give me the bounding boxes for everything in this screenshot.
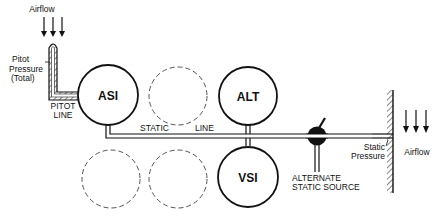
alt-instrument: ALT: [219, 67, 277, 125]
vsi-instrument: VSI: [218, 147, 278, 207]
airflow-down-arrows-icon: [41, 17, 65, 37]
svg-text:STATIC: STATIC: [140, 123, 169, 133]
svg-text:(Total): (Total): [11, 73, 35, 83]
alternate-static-valve-icon: [306, 118, 328, 146]
svg-text:LINE: LINE: [195, 123, 214, 133]
vsi-label: VSI: [238, 171, 257, 185]
alternate-static-source-label: ALTERNATE STATIC SOURCE: [292, 173, 360, 192]
svg-text:Pitot: Pitot: [12, 54, 30, 64]
airflow-top-group: Airflow: [29, 4, 65, 37]
static-line-label: STATIC LINE: [140, 123, 214, 133]
asi-instrument: ASI: [78, 65, 138, 125]
pitot-pressure-label: Pitot Pressure (Total): [9, 54, 43, 83]
airflow-down-arrows-icon: [403, 110, 429, 133]
static-pressure-label: Static Pressure: [351, 142, 386, 161]
svg-text:STATIC SOURCE: STATIC SOURCE: [292, 182, 360, 192]
pitot-tube: [45, 44, 81, 100]
airflow-top-label: Airflow: [29, 4, 55, 14]
pitot-static-diagram: Airflow Pitot Pressure (Total) PITOT LIN…: [0, 0, 441, 222]
svg-text:Pressure: Pressure: [351, 151, 385, 161]
empty-instrument-slot: [82, 150, 140, 208]
empty-instrument-slot: [149, 67, 207, 125]
alt-label: ALT: [237, 90, 260, 104]
empty-instrument-slot: [149, 150, 207, 208]
airflow-right-label: Airflow: [404, 147, 430, 157]
airflow-right-group: Airflow: [403, 110, 431, 157]
asi-label: ASI: [98, 89, 118, 103]
svg-text:LINE: LINE: [54, 110, 73, 120]
pitot-line-label: PITOT LINE: [51, 101, 76, 120]
